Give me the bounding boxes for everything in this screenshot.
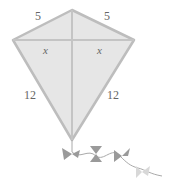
kite-body [13,10,134,140]
label-right-crossbar-x: x [97,45,102,56]
label-bottom-left-side: 12 [24,89,36,101]
tail-bows [62,146,150,178]
label-left-crossbar-x: x [43,45,48,56]
kite-diagram: 5 5 x x 12 12 [0,0,171,188]
label-top-right-side: 5 [104,10,110,22]
label-bottom-right-side: 12 [107,89,119,101]
label-top-left-side: 5 [35,10,41,22]
